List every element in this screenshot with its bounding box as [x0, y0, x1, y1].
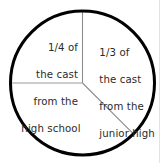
slice-label-high-school-line-3: from the [34, 96, 78, 107]
slice-label-junior-high-line-1: 1/3 of [99, 47, 129, 58]
slice-label-junior-high-school: 1/3 of the cast from the junior high sch… [86, 32, 150, 163]
slice-label-high-school-line-1: 1/4 of [48, 42, 78, 53]
slice-label-high-school: 1/4 of the cast from the high school [8, 27, 78, 149]
slice-label-junior-high-line-3: from the [99, 101, 143, 112]
slice-label-high-school-line-2: the cast [36, 69, 78, 80]
slice-label-high-school-line-4: high school [21, 123, 80, 134]
pie-chart-figure: 1/4 of the cast from the high school 1/3… [0, 0, 163, 163]
slice-label-junior-high-line-2: the cast [99, 74, 141, 85]
slice-label-junior-high-line-4: junior high [99, 128, 155, 139]
page-edge-rule [159, 0, 160, 163]
